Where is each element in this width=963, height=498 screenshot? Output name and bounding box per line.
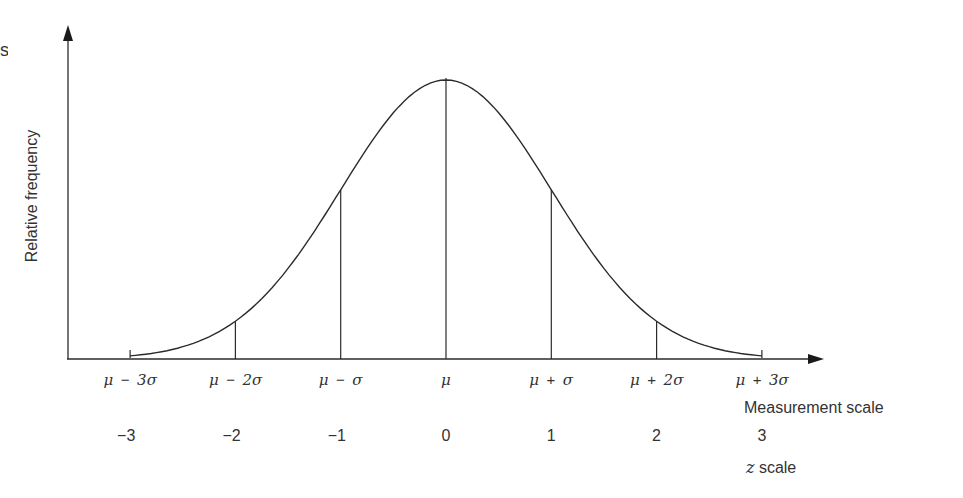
x-axis-label: Measurement scale — [744, 399, 884, 417]
z-tick-label: 1 — [547, 427, 556, 445]
z-tick-label: −1 — [328, 427, 346, 445]
z-tick-label: −2 — [222, 427, 240, 445]
measurement-tick-label: μ + σ — [529, 371, 573, 389]
y-axis-label: Relative frequency — [23, 130, 41, 263]
z-axis-label: z scale — [746, 458, 796, 477]
sigma-lines — [130, 78, 762, 359]
measurement-tick-label: μ + 3σ — [735, 371, 788, 389]
z-tick-label: 0 — [442, 427, 451, 445]
z-tick-label: −3 — [117, 427, 135, 445]
measurement-tick-label: μ − σ — [319, 371, 363, 389]
measurement-tick-label: μ − 2σ — [209, 371, 262, 389]
y-axis — [63, 25, 73, 359]
normal-distribution-chart — [0, 0, 963, 498]
measurement-tick-label: μ − 3σ — [104, 371, 157, 389]
z-tick-label: 2 — [652, 427, 661, 445]
measurement-tick-label: μ — [441, 371, 451, 389]
z-axis-label-text: scale — [754, 459, 796, 476]
x-axis-arrow-icon — [808, 354, 824, 364]
measurement-tick-label: μ + 2σ — [630, 371, 683, 389]
y-axis-arrow-icon — [63, 25, 73, 41]
cut-off-text: s — [0, 40, 8, 61]
z-tick-label: 3 — [757, 427, 766, 445]
